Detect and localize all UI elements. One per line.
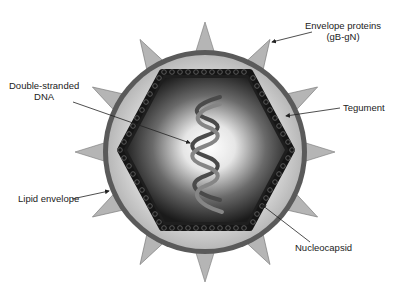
label-double-stranded-dna: Double-stranded DNA [9,80,79,102]
label-dna-line1: Double-stranded [9,80,79,91]
label-dna-line2: DNA [9,91,79,102]
label-envelope-proteins-line1: Envelope proteins [305,20,381,31]
label-envelope-proteins: Envelope proteins (gB-gN) [305,20,381,42]
label-envelope-proteins-line2: (gB-gN) [305,31,381,42]
label-nucleocapsid: Nucleocapsid [295,242,352,253]
label-lipid-envelope: Lipid envelope [18,193,79,204]
label-tegument: Tegument [343,102,385,113]
